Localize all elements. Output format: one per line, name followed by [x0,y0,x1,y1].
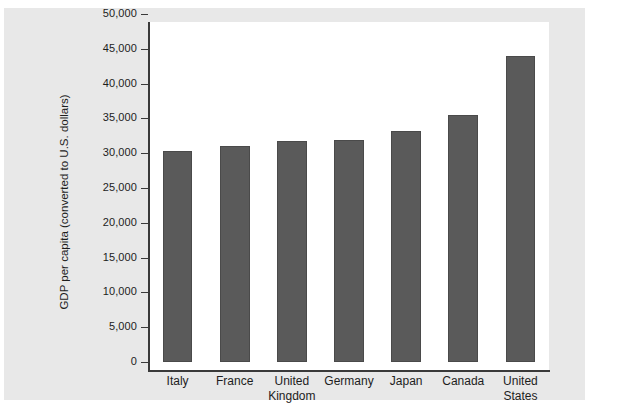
bar [277,141,307,362]
bar [163,151,193,362]
y-tick-mark [141,49,148,50]
y-tick-label-row: 0 [4,355,137,369]
chart-figure: GDP per capita (converted to U.S. dollar… [0,0,617,415]
y-tick-mark [141,258,148,259]
y-tick-mark [141,153,148,154]
y-tick-mark [141,362,148,363]
y-tick-label: 20,000 [37,216,137,228]
y-tick-mark [141,292,148,293]
y-tick-label-row: 45,000 [4,42,137,56]
bar [506,56,536,362]
bar [334,140,364,362]
y-tick-label: 15,000 [37,251,137,263]
y-tick-label-row: 25,000 [4,181,137,195]
y-tick-label-row: 5,000 [4,320,137,334]
y-tick-mark [141,223,148,224]
y-tick-label: 50,000 [37,7,137,19]
y-tick-label: 5,000 [37,320,137,332]
y-tick-label: 25,000 [37,181,137,193]
y-tick-mark [141,327,148,328]
y-axis-title: GDP per capita (converted to U.S. dollar… [58,52,70,352]
chart-panel: GDP per capita (converted to U.S. dollar… [4,8,585,400]
y-axis-line [148,22,150,372]
bar [391,131,421,362]
y-tick-label-row: 50,000 [4,7,137,21]
bar [448,115,478,362]
y-tick-label: 10,000 [37,285,137,297]
y-tick-mark [141,14,148,15]
y-tick-label-row: 40,000 [4,77,137,91]
y-tick-mark [141,84,148,85]
y-tick-label-row: 35,000 [4,111,137,125]
y-tick-label-row: 30,000 [4,146,137,160]
y-tick-label: 35,000 [37,111,137,123]
y-tick-label: 0 [37,355,137,367]
x-category-label: United States [486,374,555,403]
y-tick-label-row: 20,000 [4,216,137,230]
y-tick-label-row: 10,000 [4,285,137,299]
y-tick-mark [141,188,148,189]
bar [220,146,250,362]
y-tick-label-row: 15,000 [4,251,137,265]
x-axis-line [148,370,550,372]
y-tick-label: 30,000 [37,146,137,158]
y-tick-label: 40,000 [37,77,137,89]
y-tick-mark [141,118,148,119]
faint-top-artifact-text [154,6,474,13]
y-tick-label: 45,000 [37,42,137,54]
